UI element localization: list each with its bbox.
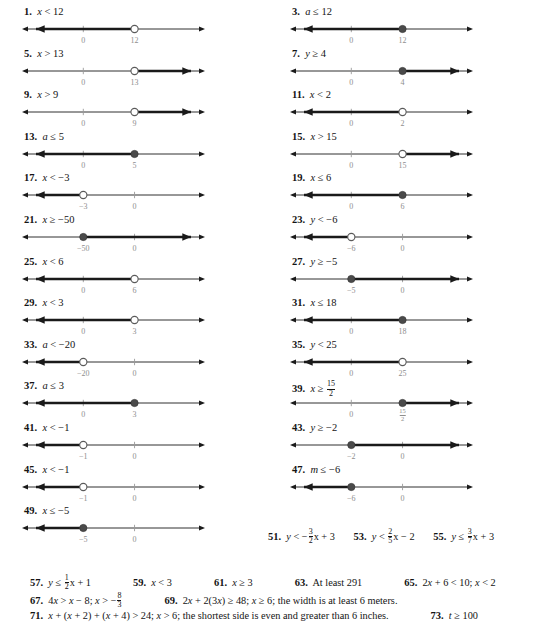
exercise-expression: a ≤ 3 [42,380,64,391]
exercise-header: 25. x < 6 [0,256,268,269]
number-line-graph: −30 [0,185,268,215]
tick-label: 0 [81,36,85,45]
exercise-expression: x > 15 [310,131,336,142]
exercise-expression: x < −1 [42,422,69,433]
exercise-number: 33. [24,339,37,350]
exercise-number: 9. [24,89,32,100]
exercise-number: 29. [24,297,37,308]
answer-entry: 65. 2x + 6 < 10; x < 2 [404,577,495,588]
tick-label: 0 [349,410,353,419]
exercise-header: 7. y ≥ 4 [268,48,536,61]
number-line-graph: −500 [0,227,268,257]
exercise-item: 27. y ≥ −5−50 [268,256,536,299]
answer-row: 71. x + (x + 2) + (x + 4) > 24; x > 6; t… [0,609,537,623]
answer-entry: 63. At least 291 [295,577,362,588]
tick-label: −20 [77,369,90,378]
exercise-expression: x ≥ −50 [42,214,74,225]
tick-label: 0 [133,369,137,378]
answer-entry: 71. x + (x + 2) + (x + 4) > 24; x > 6; t… [30,610,389,621]
exercise-item: 39. x ≥ 1520152 [268,380,536,423]
exercise-number: 45. [24,464,37,475]
exercise-item: 1. x < 12012 [0,6,268,49]
exercise-item: 31. x ≤ 18018 [268,297,536,340]
exercise-item: 3. a ≤ 12012 [268,6,536,49]
number-line-graph: 012 [0,19,268,49]
tick-label: 18 [399,327,407,336]
exercise-header: 31. x ≤ 18 [268,297,536,310]
exercise-header: 37. a ≤ 3 [0,380,268,393]
exercise-header: 41. x < −1 [0,422,268,435]
exercise-expression: x < 2 [310,89,331,100]
tick-label: 0 [133,452,137,461]
exercise-header: 19. x ≤ 6 [268,172,536,185]
tick-label: 0 [81,410,85,419]
tick-label: 0 [349,327,353,336]
tick-label: −2 [347,452,356,461]
inline-answer: 51. y < −32x + 3 [268,531,335,542]
exercise-header: 43. y ≥ −2 [268,422,536,435]
exercise-number: 15. [292,131,305,142]
exercise-expression: x < 12 [37,6,63,17]
exercise-number: 43. [292,422,305,433]
tick-label: 0 [81,327,85,336]
exercise-header: 21. x ≥ −50 [0,214,268,227]
exercise-header: 9. x > 9 [0,89,268,102]
exercise-item: 15. x > 15015 [268,131,536,174]
tick-label: 12 [131,36,139,45]
exercise-number: 13. [24,131,37,142]
tick-label: 25 [399,369,407,378]
exercise-header: 29. x < 3 [0,297,268,310]
exercise-header: 3. a ≤ 12 [268,6,536,19]
exercise-item: 21. x ≥ −50−500 [0,214,268,257]
tick-label: 5 [133,161,137,170]
number-line-graph: −60 [268,227,536,257]
exercise-item: 23. y < −6−60 [268,214,536,257]
exercise-item: 49. x ≤ −5−50 [0,505,268,548]
tick-label: 152 [398,408,407,423]
inline-answer: 55. y ≤ 37x + 3 [433,531,494,542]
exercise-item: 7. y ≥ 404 [268,48,536,91]
number-line-graph: 03 [0,310,268,340]
exercise-number: 47. [292,464,305,475]
tick-label: 12 [399,36,407,45]
exercise-expression: x ≤ 18 [310,297,336,308]
exercise-item: 47. m ≤ −6−60 [268,464,536,507]
tick-label: 6 [133,286,137,295]
exercise-expression: a < −20 [42,339,75,350]
exercise-expression: y < 25 [310,339,336,350]
exercise-number: 37. [24,380,37,391]
inline-answer: 53. y < 25x − 2 [353,531,414,542]
exercise-number: 31. [292,297,305,308]
tick-label: 0 [133,202,137,211]
number-line-graph: 03 [0,393,268,423]
tick-label: 0 [349,78,353,87]
exercise-number: 21. [24,214,37,225]
exercise-expression: m ≤ −6 [310,464,340,475]
exercise-expression: x < −3 [42,172,69,183]
exercise-item: 37. a ≤ 303 [0,380,268,423]
exercise-header: 45. x < −1 [0,464,268,477]
exercise-expression: x < −1 [42,464,69,475]
exercise-expression: y ≥ 4 [305,48,326,59]
exercise-header: 23. y < −6 [268,214,536,227]
number-line-graph: 06 [268,185,536,215]
tick-label: 0 [81,78,85,87]
exercise-header: 33. a < −20 [0,339,268,352]
exercise-header: 49. x ≤ −5 [0,505,268,518]
number-line-graph: 015 [268,144,536,174]
tick-label: 0 [81,286,85,295]
exercise-number: 19. [292,172,305,183]
exercise-item: 11. x < 202 [268,89,536,132]
exercise-expression: x > 13 [37,48,63,59]
number-line-graph: −50 [0,518,268,548]
exercise-header: 47. m ≤ −6 [268,464,536,477]
tick-label: 4 [401,78,405,87]
exercise-number: 35. [292,339,305,350]
tick-label: 0 [349,36,353,45]
exercise-expression: y ≥ −2 [310,422,337,433]
exercise-number: 1. [24,6,32,17]
exercise-number: 5. [24,48,32,59]
answer-row: 67. 4x > x − 8; x > −8369. 2x + 2(3x) ≥ … [0,592,537,610]
tick-label: −5 [347,286,356,295]
exercise-number: 27. [292,256,305,267]
